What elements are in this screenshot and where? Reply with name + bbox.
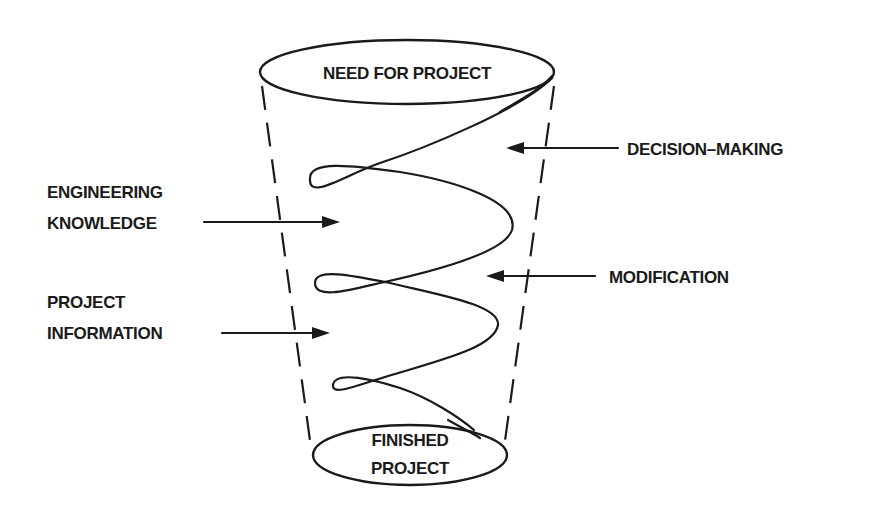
design-spiral-path bbox=[310, 78, 552, 430]
project-info-label-line1: PROJECT bbox=[47, 293, 126, 312]
engineering-knowledge-arrowhead bbox=[322, 216, 340, 228]
finished-label: FINISHED bbox=[372, 431, 449, 450]
project-info-label-line2: INFORMATION bbox=[47, 324, 162, 343]
decision-making-label: DECISION–MAKING bbox=[627, 140, 783, 159]
project-information-arrowhead bbox=[312, 327, 330, 339]
decision-making-arrowhead bbox=[506, 142, 524, 154]
design-spiral-diagram: NEED FOR PROJECT FINISHED PROJECT DECISI… bbox=[0, 0, 869, 515]
cone-left-side bbox=[262, 86, 311, 448]
modification-arrowhead bbox=[486, 270, 504, 282]
project-label: PROJECT bbox=[371, 459, 450, 478]
need-for-project-label: NEED FOR PROJECT bbox=[323, 64, 492, 83]
modification-label: MODIFICATION bbox=[609, 268, 729, 287]
cone-right-side bbox=[504, 86, 554, 448]
knowledge-label: KNOWLEDGE bbox=[47, 214, 157, 233]
engineering-label: ENGINEERING bbox=[47, 183, 163, 202]
